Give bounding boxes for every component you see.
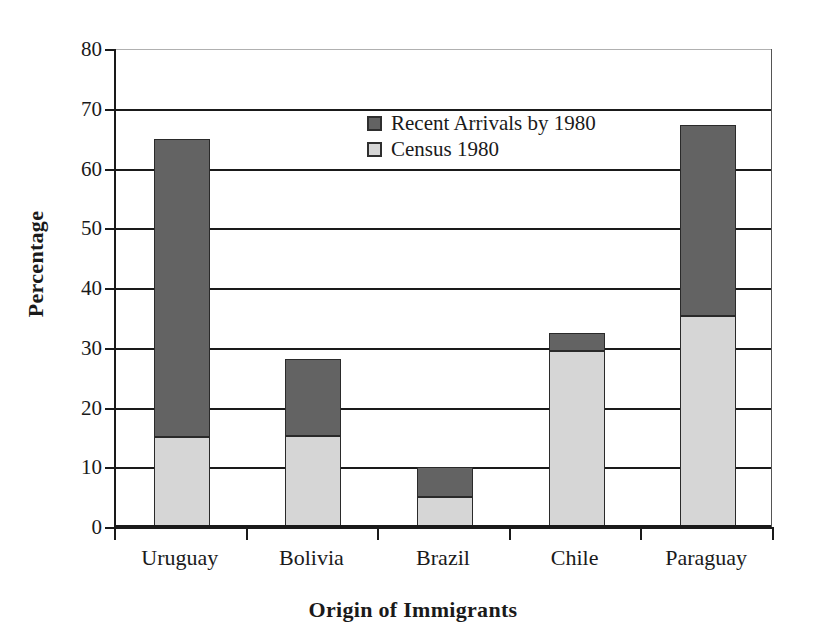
legend-label: Census 1980 xyxy=(391,139,499,160)
bar-segment-recent-arrivals xyxy=(680,125,736,316)
gridline xyxy=(116,228,771,230)
x-axis-tick-label: Uruguay xyxy=(141,545,218,571)
x-axis-tick-label: Chile xyxy=(551,545,599,571)
bar-segment-recent-arrivals xyxy=(285,359,341,437)
x-axis-tick-label: Brazil xyxy=(416,545,470,571)
y-axis-tick-label: 10 xyxy=(81,457,102,478)
y-axis-tick-mark xyxy=(105,109,116,111)
y-axis-tick-label: 0 xyxy=(92,517,103,538)
gridline xyxy=(116,169,771,171)
bar-group xyxy=(154,139,210,527)
chart-legend: Recent Arrivals by 1980Census 1980 xyxy=(367,110,596,162)
legend-swatch xyxy=(367,116,382,131)
x-axis-tick-label: Paraguay xyxy=(665,545,747,571)
y-axis-tick-mark xyxy=(105,348,116,350)
x-axis-tick-mark xyxy=(246,527,248,540)
y-axis-tick-label: 70 xyxy=(81,98,102,119)
legend-item: Census 1980 xyxy=(367,136,596,162)
y-axis-tick-mark xyxy=(105,49,116,51)
y-axis-tick-label: 50 xyxy=(81,218,102,239)
legend-swatch xyxy=(367,142,382,157)
gridline xyxy=(116,49,771,50)
y-axis-tick-mark xyxy=(105,288,116,290)
bar-segment-census xyxy=(549,351,605,527)
y-axis-tick-labels: 01020304050607080 xyxy=(56,0,108,560)
x-axis-tick-mark xyxy=(640,527,642,540)
y-axis-tick-mark xyxy=(105,408,116,410)
bar-group xyxy=(285,359,341,527)
bar-segment-recent-arrivals xyxy=(154,139,210,438)
x-axis-tick-mark xyxy=(772,527,774,540)
y-axis-tick-label: 40 xyxy=(81,278,102,299)
bar-segment-recent-arrivals xyxy=(549,333,605,351)
gridline xyxy=(116,408,771,410)
bar-segment-recent-arrivals xyxy=(417,467,473,497)
x-axis xyxy=(112,527,774,541)
y-axis-tick-label: 80 xyxy=(81,39,102,60)
legend-label: Recent Arrivals by 1980 xyxy=(391,113,596,134)
y-axis-tick-mark xyxy=(105,228,116,230)
gridline xyxy=(116,288,771,290)
y-axis-title: Percentage xyxy=(14,0,58,527)
x-axis-tick-mark xyxy=(377,527,379,540)
bar-segment-census xyxy=(680,316,736,527)
bar-group xyxy=(680,125,736,527)
x-axis-tick-mark xyxy=(509,527,511,540)
y-axis-tick-label: 60 xyxy=(81,158,102,179)
x-axis-title: Origin of Immigrants xyxy=(0,597,826,623)
x-axis-tick-label: Bolivia xyxy=(279,545,344,571)
y-axis-tick-label: 30 xyxy=(81,337,102,358)
stacked-bar-chart: Percentage 01020304050607080 UruguayBoli… xyxy=(0,0,826,641)
y-axis-tick-label: 20 xyxy=(81,397,102,418)
bar-segment-census xyxy=(154,437,210,527)
y-axis-tick-mark xyxy=(105,467,116,469)
x-axis-tick-labels: UruguayBoliviaBrazilChileParaguay xyxy=(114,545,772,579)
x-axis-tick-mark xyxy=(114,527,116,540)
legend-item: Recent Arrivals by 1980 xyxy=(367,110,596,136)
y-axis-title-text: Percentage xyxy=(23,210,49,316)
y-axis-tick-mark xyxy=(105,169,116,171)
bar-group xyxy=(417,467,473,527)
x-axis-line xyxy=(112,527,774,529)
bar-segment-census xyxy=(285,436,341,527)
bar-group xyxy=(549,333,605,527)
gridline xyxy=(116,348,771,350)
bar-segment-census xyxy=(417,497,473,527)
